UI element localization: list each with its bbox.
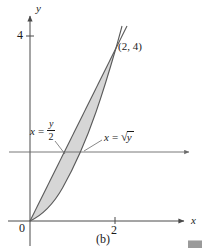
curve-equation-lhs: x (104, 132, 109, 143)
line-equation-lhs: x (30, 126, 35, 137)
line-equation-label: x = y 2 (30, 120, 55, 143)
line-equation-relation: = (37, 126, 45, 137)
figure-panel: y x 4 2 0 (2, 4) x = y 2 x = √ y (b) (0, 0, 206, 252)
curve-equation-label: x = √ y (104, 131, 134, 143)
y-axis-label: y (36, 3, 41, 14)
figure-caption: (b) (0, 233, 206, 245)
radical-sqrt-y: √ y (121, 131, 133, 143)
intersection-point-label: (2, 4) (118, 41, 142, 52)
radical-radicand: y (127, 131, 134, 143)
y-tick-label-4: 4 (17, 29, 23, 41)
scan-artifact-block (188, 240, 202, 248)
curve-equation-relation: = (111, 132, 119, 143)
fraction-numerator: y (48, 119, 54, 130)
x-axis-label: x (191, 215, 196, 226)
fraction-denominator: 2 (48, 132, 55, 143)
leader-line-to-curve (84, 140, 102, 151)
fraction-y-over-2: y 2 (47, 119, 55, 142)
